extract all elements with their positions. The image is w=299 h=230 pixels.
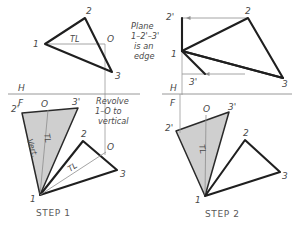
f-label-right: F [170,98,176,108]
point-label-2-top-right: 2 [245,6,251,16]
arrowhead-2prime [186,16,191,20]
point-label-O-step1: O [41,99,48,109]
tl-label-top-left: TL [70,35,79,44]
note-line-2-step1: 1–O to [95,106,122,116]
point-label-3prime-top-right: 3' [189,77,197,87]
point-label-O-step2: O [203,104,210,114]
point-label-2prime-top-right: 2' [166,12,174,22]
note-line-1-top-right: Plane [131,21,153,31]
point-label-1-step2: 1 [195,195,201,205]
tl-label-open-step1: TL [66,161,79,174]
h-label-left: H [18,83,25,93]
point-label-3prime-step2: 3' [228,102,236,112]
tl-label-shaded-step1: TL [42,133,52,144]
step-2-label: STEP 2 [205,209,240,219]
h-label-right: H [170,83,177,93]
step-1-label: STEP 1 [36,208,71,218]
note-line-3-top-right: is an [134,41,153,51]
point-label-2-step1: 2 [81,129,87,139]
point-label-3-step2: 3 [282,171,288,181]
descriptive-geometry-figure: 1 2 3 O TL 2' 1 3' 2 3 Plane 1–2'–3' is … [0,0,299,230]
point-label-3-top-left: 3 [115,71,121,81]
note-line-4-top-right: edge [134,51,154,61]
point-label-O2-step1: O [107,142,114,152]
point-label-2-top-left: 2 [86,6,92,16]
note-line-3-step1: vertical [98,116,129,126]
point-label-2-step2: 2 [243,128,249,138]
point-label-1-top-left: 1 [33,39,39,49]
reference-line-right: H F [162,83,292,108]
panel-top-left: 1 2 3 O TL [33,6,121,100]
tl-label-shaded-step2: TL [197,144,207,155]
triangle-1-2-3-top-right [182,18,283,78]
point-label-1-step1: 1 [30,194,36,204]
point-label-2prime-step1: 2' [11,104,19,114]
point-label-1-top-right: 1 [171,49,177,59]
triangle-1-2-3-top-left [45,18,112,72]
point-label-3prime-step1: 3' [72,97,80,107]
panel-step-2: 2' O 3' 1 2 3 TL STEP 2 [165,94,288,219]
panel-step-1: 2' O 3' 1 2 3 O Vert. TL TL Revolve 1–O … [11,96,129,218]
point-label-3-top-right: 3 [282,79,288,89]
panel-top-right: 2' 1 3' 2 3 Plane 1–2'–3' is an edge [131,6,288,95]
point-label-2prime-step2: 2' [165,123,173,133]
note-line-1-step1: Revolve [96,96,129,106]
shaded-triangle-step2 [176,112,229,196]
point-label-O-top-left: O [107,34,114,44]
point-label-3-step1: 3 [120,169,126,179]
note-line-2-top-right: 1–2'–3' [131,31,159,41]
